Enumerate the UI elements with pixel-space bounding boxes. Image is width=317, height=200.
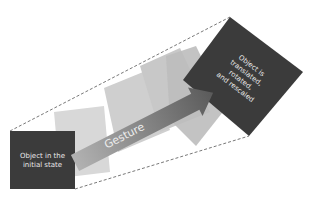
initial-state-label-line1: Object in the bbox=[20, 152, 65, 160]
initial-state-label-line2: initial state bbox=[23, 161, 62, 169]
diagram-canvas: Gesture Object in the initial state Obje… bbox=[0, 0, 317, 200]
gesture-transformation-diagram: Gesture Object in the initial state Obje… bbox=[0, 0, 317, 200]
initial-state-square bbox=[10, 131, 75, 189]
